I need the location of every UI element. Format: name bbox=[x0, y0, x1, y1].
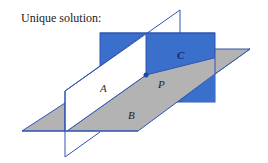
plane-b-left bbox=[22, 103, 65, 131]
label-p: P bbox=[158, 78, 165, 90]
intersection-point-p bbox=[144, 73, 149, 78]
label-c: C bbox=[177, 49, 184, 61]
plane-a-bottom-edge bbox=[65, 132, 100, 157]
plane-b-right bbox=[215, 49, 250, 74]
label-b: B bbox=[128, 109, 135, 121]
label-a: A bbox=[100, 82, 107, 94]
three-planes-diagram bbox=[0, 0, 268, 163]
